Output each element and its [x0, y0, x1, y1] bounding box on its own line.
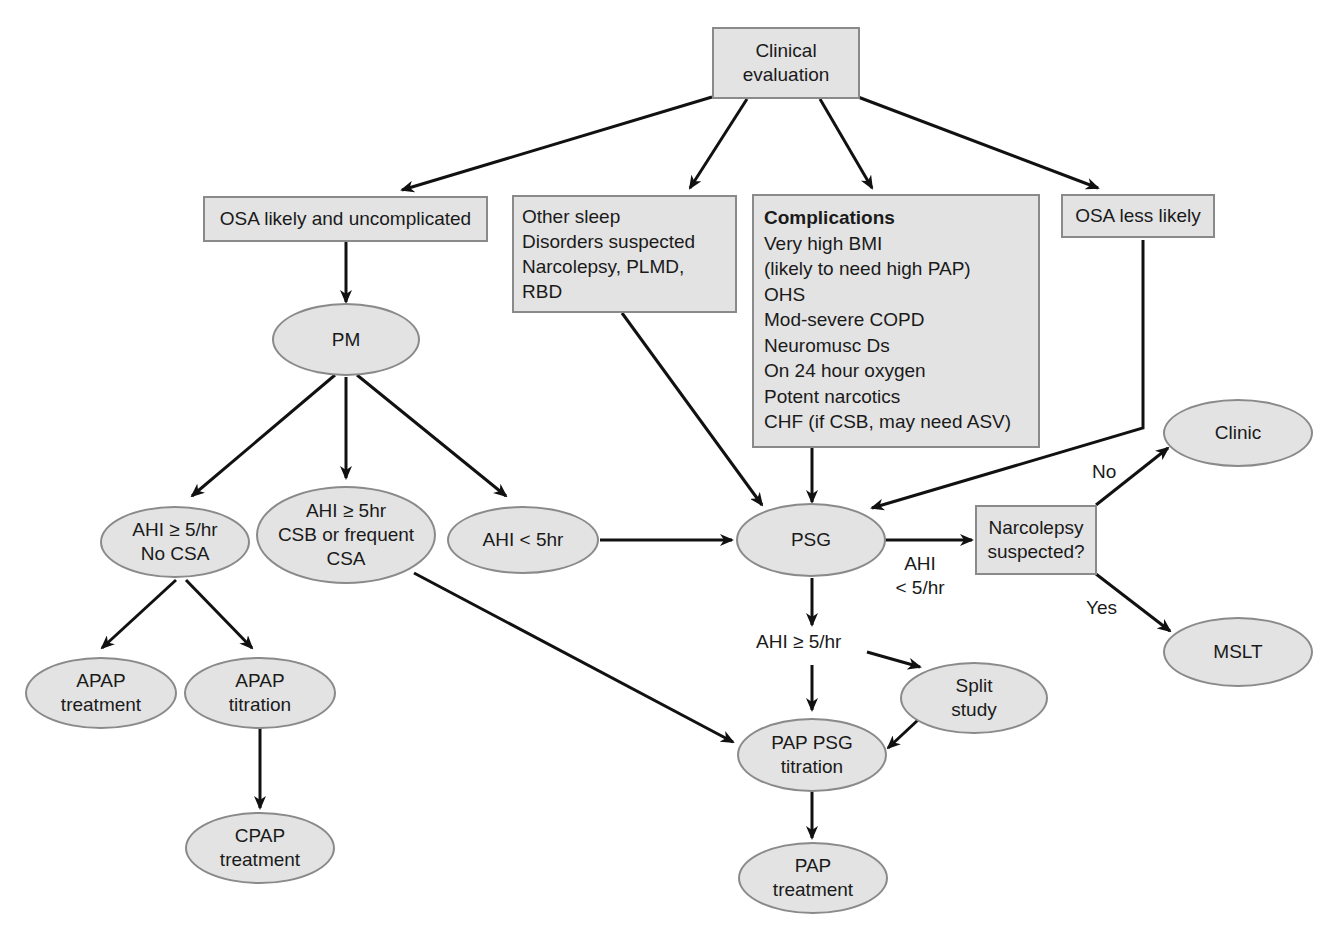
- node-ahi-ge5-no-csa: AHI ≥ 5/hr No CSA: [100, 506, 250, 578]
- node-text: OHS: [764, 282, 805, 308]
- node-narcolepsy-suspected: Narcolepsy suspected?: [975, 505, 1097, 575]
- node-text: PAP: [795, 854, 832, 878]
- node-complications: Complications Very high BMI (likely to n…: [752, 194, 1040, 448]
- node-cpap-treatment: CPAP treatment: [185, 812, 335, 884]
- edge-clinical-to-osa-likely: [402, 97, 712, 190]
- node-text: CPAP: [235, 824, 285, 848]
- node-text: Mod-severe COPD: [764, 307, 925, 333]
- node-text: evaluation: [743, 63, 830, 87]
- edge-pm-to-ahi-no-csa: [192, 375, 335, 496]
- node-text: treatment: [220, 848, 300, 872]
- edges-layer: [0, 0, 1339, 935]
- edge-clinical-to-complications: [820, 99, 872, 188]
- node-text: study: [951, 698, 996, 722]
- node-text: APAP: [76, 669, 125, 693]
- edge-label-text: < 5/hr: [884, 576, 956, 600]
- node-osa-likely-uncomplicated: OSA likely and uncomplicated: [203, 196, 488, 242]
- node-mslt: MSLT: [1163, 617, 1313, 687]
- node-text: titration: [229, 693, 291, 717]
- edge-other-sleep-to-psg: [622, 313, 762, 505]
- node-text: Narcolepsy, PLMD,: [522, 254, 684, 279]
- edge-split-to-pap-psg: [888, 720, 918, 748]
- node-text: AHI ≥ 5hr: [306, 499, 386, 523]
- node-text: Clinical: [755, 39, 816, 63]
- node-text: AHI ≥ 5/hr: [132, 518, 217, 542]
- node-split-study: Split study: [900, 662, 1048, 734]
- node-text: RBD: [522, 279, 562, 304]
- node-text: treatment: [61, 693, 141, 717]
- node-text: CHF (if CSB, may need ASV): [764, 409, 1011, 435]
- edge-label-ahi-ge5-hr: AHI ≥ 5/hr: [756, 630, 841, 654]
- edge-label-ahi-lt5-hr: AHI < 5/hr: [884, 552, 956, 600]
- node-ahi-ge5-csb-csa: AHI ≥ 5hr CSB or frequent CSA: [256, 486, 436, 584]
- edge-label-text: AHI: [884, 552, 956, 576]
- node-text: Narcolepsy: [988, 516, 1083, 540]
- edge-ahi-ge5-to-split: [867, 652, 920, 667]
- edge-clinical-to-other-sleep: [690, 99, 747, 188]
- node-text: CSB or frequent: [278, 523, 414, 547]
- edge-clinical-to-osa-less-likely: [858, 97, 1098, 188]
- node-pm: PM: [272, 303, 420, 376]
- node-psg: PSG: [736, 503, 886, 577]
- node-text: (likely to need high PAP): [764, 256, 971, 282]
- node-text: CSA: [326, 547, 365, 571]
- node-apap-titration: APAP titration: [184, 657, 336, 729]
- node-text: Neuromusc Ds: [764, 333, 890, 359]
- node-text: OSA likely and uncomplicated: [220, 207, 471, 231]
- node-ahi-lt5: AHI < 5hr: [447, 506, 599, 574]
- edge-no-csa-to-apap-titration: [186, 580, 252, 648]
- node-text: OSA less likely: [1075, 204, 1201, 228]
- node-text: PSG: [791, 528, 831, 552]
- node-clinic: Clinic: [1163, 399, 1313, 467]
- node-text: titration: [781, 755, 843, 779]
- node-other-sleep-disorders: Other sleep Disorders suspected Narcolep…: [512, 195, 737, 313]
- node-title: Complications: [764, 205, 895, 231]
- node-text: MSLT: [1213, 640, 1262, 664]
- node-text: APAP: [235, 669, 284, 693]
- node-apap-treatment: APAP treatment: [25, 657, 177, 729]
- node-text: treatment: [773, 878, 853, 902]
- edge-pm-to-ahi-lt5: [357, 375, 506, 496]
- node-text: Very high BMI: [764, 231, 882, 257]
- node-text: Clinic: [1215, 421, 1261, 445]
- node-text: No CSA: [141, 542, 210, 566]
- node-pap-treatment: PAP treatment: [738, 842, 888, 914]
- edge-no-csa-to-apap-treatment: [102, 580, 176, 648]
- node-text: Potent narcotics: [764, 384, 900, 410]
- node-osa-less-likely: OSA less likely: [1061, 194, 1215, 238]
- node-text: suspected?: [987, 540, 1084, 564]
- node-text: PAP PSG: [771, 731, 853, 755]
- node-text: Disorders suspected: [522, 229, 695, 254]
- node-text: Split: [956, 674, 993, 698]
- edge-ahi-csb-to-pap-psg: [414, 573, 733, 742]
- node-text: AHI < 5hr: [483, 528, 564, 552]
- node-pap-psg-titration: PAP PSG titration: [737, 718, 887, 792]
- edge-label-yes: Yes: [1086, 596, 1117, 620]
- node-text: Other sleep: [522, 204, 620, 229]
- edge-label-no: No: [1092, 460, 1116, 484]
- node-text: PM: [332, 328, 361, 352]
- node-clinical-evaluation: Clinical evaluation: [712, 27, 860, 99]
- node-text: On 24 hour oxygen: [764, 358, 926, 384]
